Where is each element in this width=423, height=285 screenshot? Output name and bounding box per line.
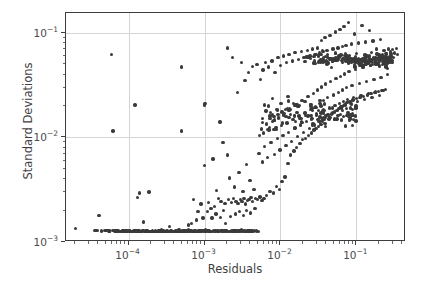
data-point [279, 64, 282, 67]
data-point [226, 46, 229, 49]
data-point [384, 88, 387, 91]
data-point [304, 137, 307, 140]
data-point [238, 210, 241, 213]
data-point [219, 216, 222, 219]
data-point [357, 41, 360, 44]
data-point [347, 21, 350, 24]
data-point [276, 113, 279, 116]
data-point [344, 44, 347, 47]
data-point [262, 197, 265, 200]
data-point [211, 157, 214, 160]
data-point [97, 214, 100, 217]
data-point [310, 131, 313, 134]
data-point [226, 153, 229, 156]
data-point [329, 80, 332, 83]
data-point [354, 104, 357, 107]
x-tick-minor [181, 241, 182, 244]
x-ticklabel: 10−4 [115, 247, 139, 261]
data-point [396, 53, 399, 56]
data-point [242, 214, 245, 217]
data-point [291, 59, 294, 62]
data-point [347, 61, 350, 64]
data-point [342, 115, 345, 118]
data-point [318, 99, 321, 102]
data-point [378, 64, 381, 67]
data-point [276, 137, 279, 140]
data-point [381, 53, 384, 56]
data-point [169, 229, 172, 232]
data-point [272, 191, 275, 194]
data-point [369, 64, 372, 67]
data-point [365, 80, 368, 83]
data-point [328, 116, 331, 119]
data-point [251, 65, 254, 68]
data-point [231, 56, 234, 59]
data-point [269, 141, 272, 144]
data-point [336, 46, 339, 49]
data-point [203, 164, 206, 167]
data-point [325, 49, 328, 52]
data-point [195, 218, 198, 221]
data-point [303, 60, 306, 63]
data-point [247, 71, 250, 74]
data-point [358, 82, 361, 85]
data-point [119, 230, 122, 233]
data-point [330, 66, 333, 69]
data-point [236, 91, 239, 94]
data-point [218, 120, 221, 123]
data-point [199, 202, 202, 205]
data-point [110, 53, 113, 56]
data-point [309, 114, 312, 117]
data-point [319, 58, 322, 61]
data-point [350, 84, 353, 87]
data-point [350, 42, 353, 45]
x-tick-minor [226, 241, 227, 244]
data-point [327, 61, 330, 64]
data-point [377, 56, 380, 59]
data-point [245, 163, 248, 166]
data-point [293, 51, 296, 54]
data-point [286, 162, 289, 165]
data-point [273, 71, 276, 74]
data-point [341, 88, 344, 91]
data-point [341, 109, 344, 112]
data-point [261, 121, 264, 124]
y-tick-minor [63, 37, 66, 38]
data-point [334, 51, 337, 54]
data-point [379, 76, 382, 79]
data-point [335, 117, 338, 120]
x-tick-minor [333, 241, 334, 244]
x-tick-minor [173, 241, 174, 244]
data-point [257, 230, 260, 233]
data-point [342, 25, 345, 28]
data-point [240, 61, 243, 64]
x-tick-minor [378, 241, 379, 244]
data-point [210, 216, 213, 219]
data-point [347, 70, 350, 73]
x-tick-minor [150, 241, 151, 244]
x-tick-minor [339, 241, 340, 244]
data-point [344, 124, 347, 127]
data-point [260, 127, 263, 130]
data-point [267, 104, 270, 107]
data-point [329, 57, 332, 60]
y-tick-minor [63, 87, 66, 88]
data-point [292, 149, 295, 152]
data-point [320, 85, 323, 88]
data-point [253, 207, 256, 210]
plot-area [65, 12, 405, 241]
data-point [287, 99, 290, 102]
data-point [270, 59, 273, 62]
data-point [353, 65, 356, 68]
data-point [276, 56, 279, 59]
data-point [273, 118, 276, 121]
data-point [214, 212, 217, 215]
data-point [255, 63, 258, 66]
data-point [184, 229, 187, 232]
data-point [240, 228, 243, 231]
data-point [316, 88, 319, 91]
data-point [283, 175, 286, 178]
gridline-vertical [129, 13, 130, 240]
data-point [259, 78, 262, 81]
data-point [221, 141, 224, 144]
